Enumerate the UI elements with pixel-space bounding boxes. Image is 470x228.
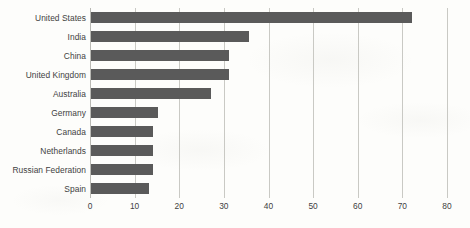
bar [91, 107, 158, 118]
bar [91, 183, 149, 194]
gridline [447, 8, 448, 198]
category-label: India [0, 32, 86, 43]
category-label: Germany [0, 108, 86, 119]
gridline [269, 8, 270, 198]
category-label: Russian Federation [0, 165, 86, 176]
category-label: Canada [0, 127, 86, 138]
bar [91, 12, 412, 23]
gridline [358, 8, 359, 198]
bar [91, 50, 229, 61]
bar [91, 31, 249, 42]
bar [91, 164, 153, 175]
category-axis-labels: United StatesIndiaChinaUnited KingdomAus… [0, 8, 86, 198]
bar [91, 88, 211, 99]
gridline [313, 8, 314, 198]
category-label: China [0, 51, 86, 62]
x-tick-label: 30 [219, 200, 228, 212]
category-label: United States [0, 13, 86, 24]
category-label: United Kingdom [0, 70, 86, 81]
bar-chart: United StatesIndiaChinaUnited KingdomAus… [0, 0, 470, 228]
category-label: Spain [0, 184, 86, 195]
plot-area [90, 8, 457, 198]
x-tick-label: 60 [353, 200, 362, 212]
x-tick-label: 40 [264, 200, 273, 212]
x-tick-label: 0 [88, 200, 93, 212]
category-label: Netherlands [0, 146, 86, 157]
x-tick-label: 50 [308, 200, 317, 212]
bar [91, 126, 153, 137]
x-tick-label: 20 [175, 200, 184, 212]
x-tick-label: 70 [398, 200, 407, 212]
value-axis-labels: 01020304050607080 [90, 200, 457, 216]
x-tick-label: 10 [130, 200, 139, 212]
category-label: Australia [0, 89, 86, 100]
x-tick-label: 80 [442, 200, 451, 212]
bar [91, 69, 229, 80]
gridline [402, 8, 403, 198]
bar [91, 145, 153, 156]
